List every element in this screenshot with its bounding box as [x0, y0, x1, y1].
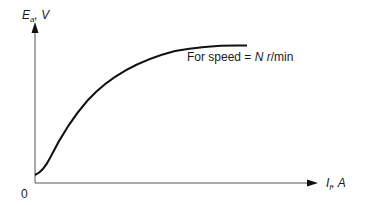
- origin-label: 0: [21, 187, 28, 201]
- x-axis-arrow-icon: [307, 180, 318, 187]
- annotation-label: For speed = N r/min: [187, 50, 293, 64]
- y-axis-label: Ea, V: [22, 8, 49, 24]
- magnetization-chart: [0, 0, 369, 205]
- magnetization-curve: [35, 45, 247, 175]
- x-axis-label: If, A: [326, 176, 346, 192]
